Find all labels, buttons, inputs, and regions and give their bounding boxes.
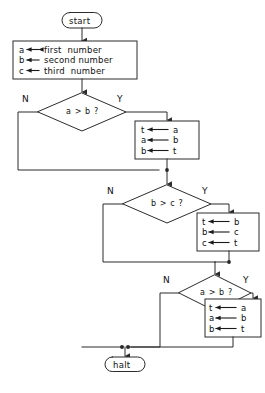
input-row-2-source: third number [44, 67, 105, 76]
halt-label: halt [113, 361, 131, 370]
swap2-row-0-source: b [234, 218, 240, 227]
swap1-row-0-source: a [173, 126, 178, 135]
swap2-row-1-target: b [202, 228, 208, 237]
swap3-row-1-source: b [241, 314, 247, 323]
swap3-row-0-source: a [241, 304, 246, 313]
swap1-row-1-target: a [141, 136, 146, 145]
input-row-0-source: first number [44, 46, 102, 55]
flowchart-graphics [0, 0, 265, 393]
input-row-1-target: b [19, 56, 25, 65]
swap2-row-2-target: c [202, 239, 207, 248]
input-row-1-source: second number [44, 56, 113, 65]
swap3-row-2-source: t [241, 325, 245, 334]
input-row-0-target: a [19, 46, 24, 55]
decision1-label: a > b ? [66, 108, 99, 116]
decision2-yes-label: Y [202, 187, 208, 196]
decision1-yes-label: Y [117, 95, 123, 104]
decision1-no-label: N [22, 95, 29, 104]
decision2-label: b > c ? [151, 200, 183, 208]
input-row-2-target: c [19, 67, 24, 76]
flowchart-canvas: start a first number b second number c t… [0, 0, 265, 393]
decision3-yes-label: Y [243, 276, 249, 285]
swap2-row-2-source: t [234, 239, 238, 248]
swap3-row-2-target: b [209, 325, 215, 334]
swap2-row-1-source: c [234, 228, 239, 237]
swap3-row-0-target: t [209, 304, 213, 313]
swap1-row-0-target: t [141, 126, 145, 135]
start-label: start [69, 17, 90, 26]
swap2-row-0-target: t [202, 218, 206, 227]
decision3-no-label: N [163, 276, 170, 285]
swap1-row-1-source: b [173, 136, 179, 145]
swap1-row-2-target: b [141, 147, 147, 156]
swap1-row-2-source: t [173, 147, 177, 156]
swap3-row-1-target: a [209, 314, 214, 323]
decision2-no-label: N [107, 187, 114, 196]
decision3-label: a > b ? [200, 289, 233, 297]
